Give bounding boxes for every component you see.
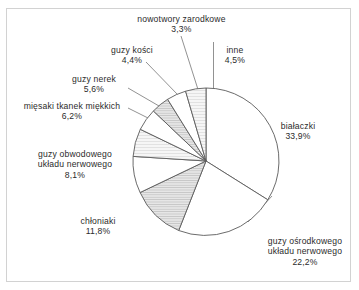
label-bialaczki: białaczki 33,9% xyxy=(262,121,334,142)
label-guzy-osrodkowego-ukladu-nerwowego: guzy ośrodkowego układu nerwowego 22,2% xyxy=(253,236,357,267)
pie-slices xyxy=(133,88,279,235)
leader-line-nowotwory-zarodkowe xyxy=(181,36,198,90)
label-inne: inne 4,5% xyxy=(204,45,266,66)
leader-line-guzy-kosci xyxy=(146,62,178,95)
label-bialaczki-name: białaczki xyxy=(262,121,334,131)
label-miesaki-tkanek-miekkich: mięsaki tkanek miękkich 6,2% xyxy=(16,101,128,122)
label-nowotwory-zarodkowe: nowotwory zarodkowe 3,3% xyxy=(94,14,269,35)
label-guzy-nerek-name: guzy nerek xyxy=(54,74,134,84)
label-guzy-obwodowego-value: 8,1% xyxy=(23,170,127,180)
label-nowotwory-zarodkowe-value: 3,3% xyxy=(94,24,269,34)
leader-line-miesaki xyxy=(128,108,148,118)
label-chloniaki: chłoniaki 11,8% xyxy=(62,216,134,237)
label-guzy-obwodowego-ukladu-nerwowego: guzy obwodowego układu nerwowego 8,1% xyxy=(23,149,127,180)
label-nowotwory-zarodkowe-name: nowotwory zarodkowe xyxy=(94,14,269,24)
label-miesaki-tkanek-miekkich-name: mięsaki tkanek miękkich xyxy=(16,101,128,111)
label-guzy-kosci: guzy kości 4,4% xyxy=(92,45,172,66)
label-inne-name: inne xyxy=(204,45,266,55)
label-guzy-kosci-name: guzy kości xyxy=(92,45,172,55)
pie-chart-figure: nowotwory zarodkowe 3,3% guzy kości 4,4%… xyxy=(0,0,359,290)
label-guzy-kosci-value: 4,4% xyxy=(92,55,172,65)
label-guzy-obwodowego-line2: układu nerwowego xyxy=(23,159,127,169)
label-guzy-osrodkowego-line1: guzy ośrodkowego xyxy=(253,236,357,246)
label-chloniaki-value: 11,8% xyxy=(62,226,134,236)
label-guzy-osrodkowego-line2: układu nerwowego xyxy=(253,246,357,256)
label-guzy-obwodowego-line1: guzy obwodowego xyxy=(23,149,127,159)
label-inne-value: 4,5% xyxy=(204,55,266,65)
label-guzy-nerek-value: 5,6% xyxy=(54,84,134,94)
label-chloniaki-name: chłoniaki xyxy=(62,216,134,226)
label-bialaczki-value: 33,9% xyxy=(262,131,334,141)
label-guzy-osrodkowego-value: 22,2% xyxy=(253,257,357,267)
label-guzy-nerek: guzy nerek 5,6% xyxy=(54,74,134,95)
label-miesaki-tkanek-miekkich-value: 6,2% xyxy=(16,111,128,121)
